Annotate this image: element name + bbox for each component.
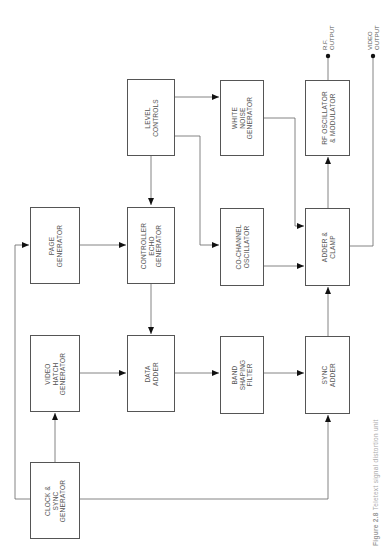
- wire-level-to-cochannel: [175, 136, 219, 245]
- video-output-terminal: [371, 54, 375, 58]
- wire-clock-to-page: [15, 245, 30, 499]
- video-output-label: VIDEO OUTPUT: [367, 25, 380, 50]
- block-video-hatch-generator: VIDEO HATCH GENERATOR: [30, 335, 80, 412]
- block-white-noise-generator: WHITE NOISE GENERATOR: [220, 80, 264, 156]
- block-rf-oscillator-modulator: RF OSCILLATOR & MODULATOR: [305, 80, 350, 156]
- block-page-generator: PAGE GENERATOR: [30, 207, 80, 284]
- block-co-channel-oscillator: CO-CHANNEL OSCILLATOR: [220, 208, 264, 286]
- wire-clock-to-sync-adder: [80, 415, 328, 499]
- block-data-adder: DATA ADDER: [127, 335, 175, 412]
- wire-clamp-to-video-output: [350, 57, 373, 246]
- block-label: LEVEL CONTROLS: [144, 99, 159, 137]
- block-sync-adder: SYNC ADDER: [305, 336, 350, 414]
- wire-noise-to-clamp: [264, 118, 304, 226]
- block-label: CO-CHANNEL OSCILLATOR: [235, 225, 250, 270]
- rf-output-label: R.F. OUTPUT: [322, 25, 335, 50]
- block-level-controls: LEVEL CONTROLS: [127, 79, 175, 156]
- block-label: VIDEO HATCH GENERATOR: [44, 352, 67, 394]
- figure-number: Figure 2.8: [372, 512, 379, 546]
- block-adder-clamp: ADDER & CLAMP: [305, 208, 350, 286]
- block-label: CONTROLLER ECHO GENERATOR: [140, 222, 163, 268]
- rf-output-terminal: [326, 54, 330, 58]
- block-label: RF OSCILLATOR & MODULATOR: [320, 91, 335, 145]
- block-label: CLOCK & SYNC GENERATOR: [44, 479, 67, 521]
- block-label: BAND SHAPING FILTER: [231, 360, 254, 391]
- block-label: ADDER & CLAMP: [320, 232, 335, 262]
- block-clock-sync-generator: CLOCK & SYNC GENERATOR: [30, 462, 80, 539]
- block-label: WHITE NOISE GENERATOR: [231, 97, 254, 139]
- block-label: DATA ADDER: [144, 362, 159, 386]
- block-label: PAGE GENERATOR: [48, 224, 63, 266]
- figure-caption-text: Teletext signal distortion unit: [372, 419, 379, 510]
- block-label: SYNC ADDER: [320, 363, 335, 387]
- figure-caption: Figure 2.8 Teletext signal distortion un…: [372, 419, 379, 546]
- block-band-shaping-filter: BAND SHAPING FILTER: [220, 336, 264, 414]
- block-controller-echo-generator: CONTROLLER ECHO GENERATOR: [127, 207, 175, 284]
